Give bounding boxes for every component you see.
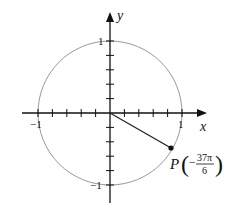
point-p-label: P ( − 37π 6 ) [169,151,223,177]
right-paren: ) [215,151,223,177]
fraction-numerator: 37π [197,152,212,163]
y-axis-arrow-icon [106,12,114,22]
x-axis-arrow-icon [197,109,207,117]
point-p-marker [168,145,173,150]
x-tick-label-neg1: −1 [30,118,42,130]
fraction-denominator: 6 [202,165,207,176]
radius-segment [110,113,171,148]
y-tick-label-neg1: −1 [90,179,102,191]
unit-circle-diagram: y x −1 1 1 −1 P ( − 37π 6 ) [0,0,230,210]
minus-sign: − [189,155,196,169]
left-paren: ( [181,151,189,177]
point-name: P [169,156,179,172]
x-tick-label-1: 1 [178,118,184,130]
x-axis-label: x [199,119,207,134]
y-axis-label: y [115,8,124,23]
y-tick-label-1: 1 [98,35,104,47]
